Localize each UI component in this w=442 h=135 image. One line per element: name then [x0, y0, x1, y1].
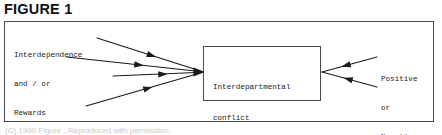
conflict-box-label: Interdepartmental conflict	[213, 62, 290, 135]
figure-container: FIGURE 1	[0, 0, 442, 135]
antecedent-line-2: and / or	[14, 80, 96, 90]
outcomes-label: Positive or Negative outcomes	[381, 55, 417, 135]
conflict-line-2: conflict	[213, 113, 290, 123]
outcome-line-3: Negative	[381, 133, 417, 135]
antecedent-line-1: Interdependence	[14, 51, 96, 61]
outcome-line-2: or	[381, 104, 417, 114]
figure-caption: (C) 1990 Figure . Reproduced with permis…	[5, 126, 171, 135]
conflict-line-1: Interdepartmental	[213, 82, 290, 92]
antecedent-conditions-label: Interdependence and / or Rewards and / o…	[14, 31, 96, 135]
outcome-line-1: Positive	[381, 75, 417, 85]
antecedent-line-3: Rewards	[14, 109, 96, 119]
figure-title: FIGURE 1	[4, 1, 72, 17]
